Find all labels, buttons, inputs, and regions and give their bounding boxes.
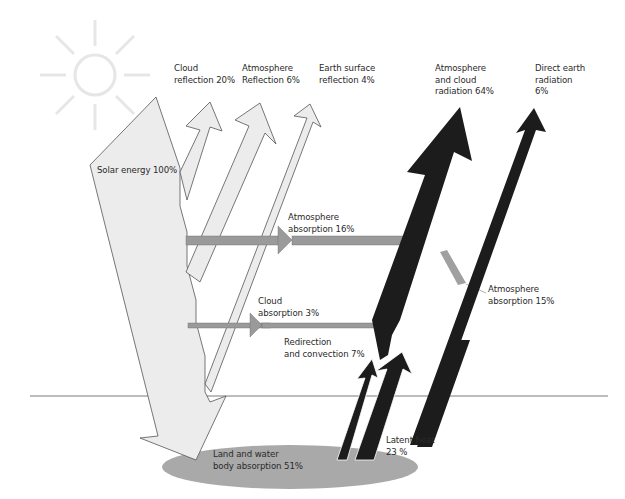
label-cloud-reflection: Cloud reflection 20% — [174, 63, 235, 86]
energy-balance-diagram — [0, 0, 625, 499]
label-earth-surface-reflection: Earth surface reflection 4% — [319, 63, 375, 86]
solar-energy-arrow — [90, 97, 226, 460]
atmosphere-absorption-15-connector — [440, 250, 466, 285]
sun-icon — [40, 20, 150, 130]
label-latent-heat: Latent heat 23 % — [386, 435, 435, 458]
label-solar-energy: Solar energy 100% — [97, 165, 177, 177]
cloud-reflection-arrow — [180, 102, 222, 200]
label-land-water-absorption: Land and water body absorption 51% — [213, 449, 303, 472]
label-direct-earth-radiation: Direct earth radiation 6% — [535, 63, 585, 98]
label-redirection-convection: Redirection and convection 7% — [284, 337, 365, 360]
label-atmosphere-absorption-15: Atmosphere absorption 15% — [488, 284, 554, 307]
label-cloud-absorption: Cloud absorption 3% — [258, 296, 319, 319]
label-atmosphere-cloud-radiation: Atmosphere and cloud radiation 64% — [435, 63, 494, 98]
label-atmosphere-absorption-16: Atmosphere absorption 16% — [288, 212, 354, 235]
label-atmosphere-reflection: Atmosphere Reflection 6% — [242, 63, 300, 86]
